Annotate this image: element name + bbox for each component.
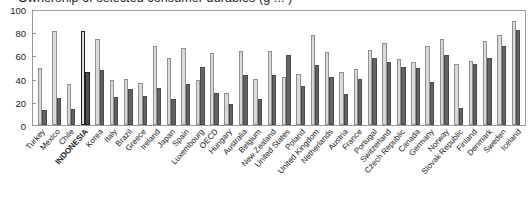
y-axis-tick	[32, 80, 36, 81]
bar-group	[265, 11, 279, 125]
bar-group	[380, 11, 394, 125]
bar-series-2	[243, 75, 247, 125]
bar-series-2	[157, 88, 161, 125]
bar-group	[351, 11, 365, 125]
bar-series-2	[186, 84, 190, 125]
bar-series-2	[516, 30, 520, 125]
bar-series-2	[71, 109, 75, 125]
bar-group	[207, 11, 221, 125]
bar-series-2	[344, 94, 348, 125]
y-axis-tick	[32, 33, 36, 34]
bar-group	[193, 11, 207, 125]
bar-group	[49, 11, 63, 125]
bar-series-2	[358, 79, 362, 125]
y-axis-tick-label: 20	[15, 97, 26, 108]
bar-group	[322, 11, 336, 125]
bar-series-2	[114, 97, 118, 125]
bar-series-2	[315, 65, 319, 125]
bar-series-2	[430, 82, 434, 125]
y-axis-tick-label: 100	[10, 5, 26, 16]
bar-series-2	[258, 99, 262, 125]
bar-series-2	[372, 58, 376, 125]
bar-group	[495, 11, 509, 125]
bar-series-2	[459, 108, 463, 125]
bar-group	[423, 11, 437, 125]
bar-group	[437, 11, 451, 125]
bar-series-2	[329, 77, 333, 125]
y-axis-tick-label: 80	[15, 28, 26, 39]
bar-series-2	[286, 55, 290, 125]
bar-group	[337, 11, 351, 125]
bar-group	[365, 11, 379, 125]
bar-group	[308, 11, 322, 125]
bar-series-2	[42, 110, 46, 125]
bar-series-2	[272, 75, 276, 125]
y-axis-tick	[32, 103, 36, 104]
bar-series-2	[85, 72, 89, 125]
bar-group	[92, 11, 106, 125]
y-axis-tick	[32, 56, 36, 57]
bar-series-2	[171, 99, 175, 125]
bar-group	[466, 11, 480, 125]
bar-group	[164, 11, 178, 125]
bar-series-2	[143, 96, 147, 125]
bar-series-2	[128, 89, 132, 125]
bar-series-2	[473, 64, 477, 125]
bar-series-container	[33, 11, 525, 125]
bar-group	[78, 11, 92, 125]
bar-group	[150, 11, 164, 125]
bar-series-2	[416, 68, 420, 125]
x-axis-label-cell: Iceland	[509, 126, 523, 214]
y-axis-labels: 020406080100	[0, 10, 30, 126]
bar-group	[35, 11, 49, 125]
bar-group	[64, 11, 78, 125]
plot-area	[32, 10, 526, 126]
y-axis-tick-label: 40	[15, 74, 26, 85]
bar-series-2	[200, 67, 204, 125]
bar-group	[179, 11, 193, 125]
y-axis-tick-label: 60	[15, 51, 26, 62]
bar-group	[451, 11, 465, 125]
bar-group	[509, 11, 523, 125]
bar-group	[107, 11, 121, 125]
bar-series-2	[387, 62, 391, 125]
bar-group	[293, 11, 307, 125]
bar-series-2	[214, 93, 218, 125]
bar-series-2	[100, 70, 104, 125]
bar-series-2	[229, 104, 233, 125]
bar-group	[236, 11, 250, 125]
bar-group	[394, 11, 408, 125]
y-axis-tick	[32, 10, 36, 11]
bar-series-2	[401, 67, 405, 125]
bar-series-2	[444, 55, 448, 125]
bar-group	[250, 11, 264, 125]
bar-chart: Ownership of selected consumer durables …	[0, 0, 532, 214]
bar-group	[136, 11, 150, 125]
bar-series-2	[301, 86, 305, 125]
y-axis-tick-label: 0	[21, 121, 26, 132]
bar-series-2	[502, 46, 506, 125]
bar-group	[121, 11, 135, 125]
bar-group	[408, 11, 422, 125]
bar-group	[222, 11, 236, 125]
bar-group	[279, 11, 293, 125]
bar-group	[480, 11, 494, 125]
bar-series-2	[487, 58, 491, 125]
x-axis-labels: TurkeyMexicoChileINDONESIAKoreaItalyBraz…	[32, 126, 526, 214]
chart-title: Ownership of selected consumer durables …	[18, 0, 292, 5]
bar-series-2	[57, 98, 61, 125]
